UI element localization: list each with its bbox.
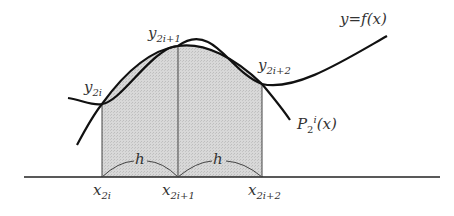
spacing-label-h-1: h [135,152,145,167]
point-label-y2i: y2i [84,80,102,98]
tick-label-x2i2: x2i+2 [248,183,281,201]
simpson-rule-diagram [0,0,454,216]
parabola-label-sub: 2 [307,124,313,135]
tick-label-x2i1: x2i+1 [162,183,195,201]
tick-sub: 2i+1 [170,190,194,201]
point-sub: 2i [92,87,102,98]
spacing-label-h-2: h [213,152,223,167]
tick-sub: 2i+2 [256,190,280,201]
parabola-label-base: P [297,115,307,133]
parabola-label: P2i(x) [297,115,337,135]
point-label-y2i1: y2i+1 [148,26,181,44]
curve-label-arg: (x) [367,10,387,28]
curve-label-eq: = [348,10,361,28]
point-label-y2i2: y2i+2 [258,58,291,76]
tick-label-x2i: x2i [93,183,111,201]
point-sub: 2i+2 [266,65,290,76]
tick-sub: 2i [101,190,111,201]
point-sub: 2i+1 [156,33,180,44]
curve-f-label: y=f(x) [340,12,387,27]
parabola-label-arg: (x) [317,115,337,133]
